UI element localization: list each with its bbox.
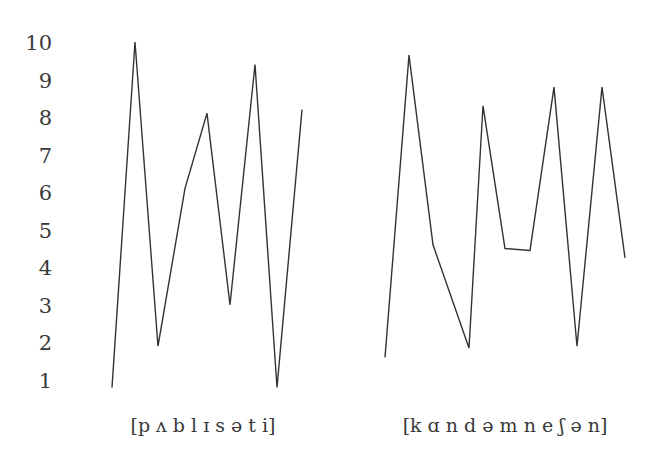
series-line-2 bbox=[385, 55, 625, 357]
y-tick-label: 1 bbox=[39, 369, 52, 393]
series-line-1 bbox=[112, 42, 302, 388]
y-tick-label: 10 bbox=[25, 31, 52, 55]
y-tick-label: 5 bbox=[39, 219, 52, 243]
y-tick-label: 6 bbox=[39, 181, 52, 205]
y-tick-label: 3 bbox=[39, 294, 52, 318]
y-tick-label: 2 bbox=[39, 331, 52, 355]
y-axis-ticks: 12345678910 bbox=[25, 31, 52, 393]
y-tick-label: 8 bbox=[39, 106, 52, 130]
word-transcription-label: [k ɑ n d ə m n e ʃ ə n] bbox=[403, 414, 608, 436]
y-tick-label: 4 bbox=[39, 256, 52, 280]
x-axis-labels: [p ʌ b l ɪ s ə t i][k ɑ n d ə m n e ʃ ə … bbox=[130, 414, 607, 436]
series-lines bbox=[112, 42, 625, 388]
y-tick-label: 9 bbox=[39, 69, 52, 93]
y-tick-label: 7 bbox=[39, 144, 52, 168]
word-transcription-label: [p ʌ b l ɪ s ə t i] bbox=[130, 414, 275, 436]
syllable-contour-chart: 12345678910 [p ʌ b l ɪ s ə t i][k ɑ n d … bbox=[0, 0, 671, 463]
